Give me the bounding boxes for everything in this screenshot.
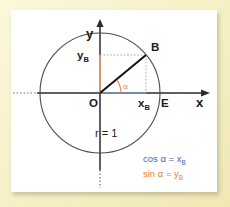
- y-axis-label: y: [86, 26, 94, 41]
- legend-cos: cos α = xB: [143, 153, 186, 166]
- alpha-label: α: [123, 82, 128, 91]
- y-b-subscript: B: [84, 55, 90, 64]
- origin-label: O: [89, 97, 98, 109]
- legend-cos-text: cos α = x: [143, 153, 182, 164]
- point-b-label: B: [151, 41, 159, 53]
- legend-sin-subscript: B: [179, 174, 183, 181]
- legend-cos-subscript: B: [182, 159, 186, 166]
- figure-panel: y x O B E x B y B r = 1 α cos α = xB sin…: [11, 10, 217, 192]
- radius-label: r = 1: [95, 127, 117, 139]
- legend-sin: sin α = yB: [143, 168, 183, 181]
- x-axis-label: x: [196, 95, 204, 110]
- legend-sin-text: sin α = y: [143, 168, 179, 179]
- x-b-subscript: B: [145, 103, 151, 112]
- point-e-label: E: [161, 97, 169, 109]
- angle-arc: [117, 80, 121, 93]
- y-axis-arrow: [96, 19, 103, 27]
- diagram-canvas: y x O B E x B y B r = 1 α cos α = xB sin…: [11, 10, 217, 192]
- figure-root: y x O B E x B y B r = 1 α cos α = xB sin…: [0, 0, 230, 207]
